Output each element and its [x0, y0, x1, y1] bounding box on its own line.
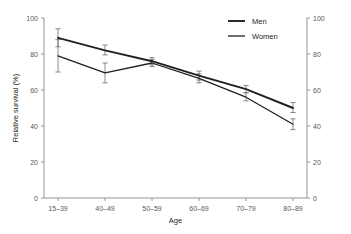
relative-survival-chart: 02040608010002040608010015–3940–4950–596… — [0, 0, 351, 234]
x-axis-tick-label: 70–79 — [236, 205, 256, 212]
y-axis-left-tick-label: 20 — [30, 159, 38, 166]
y-axis-left-tick-label: 60 — [30, 87, 38, 94]
y-axis-right-tick-label: 100 — [313, 15, 325, 22]
y-axis-left-tick-label: 0 — [34, 195, 38, 202]
y-axis-right-tick-label: 0 — [313, 195, 317, 202]
x-axis-title: Age — [169, 216, 182, 225]
y-axis-left-tick-label: 100 — [26, 15, 38, 22]
legend-label-men: Men — [252, 17, 267, 26]
y-axis-right-tick-label: 20 — [313, 159, 321, 166]
y-axis-right-tick-label: 60 — [313, 87, 321, 94]
y-axis-left-tick-label: 40 — [30, 123, 38, 130]
legend-label-women: Women — [252, 32, 278, 41]
x-axis-tick-label: 40–49 — [95, 205, 115, 212]
y-axis-left-tick-label: 80 — [30, 51, 38, 58]
series-line-women — [58, 56, 293, 124]
x-axis-tick-label: 60–69 — [189, 205, 209, 212]
x-axis-tick-label: 15–39 — [48, 205, 68, 212]
y-axis-right-tick-label: 80 — [313, 51, 321, 58]
chart-canvas: 02040608010002040608010015–3940–4950–596… — [0, 0, 351, 234]
x-axis-tick-label: 80–89 — [283, 205, 303, 212]
series-line-men — [58, 38, 293, 108]
x-axis-tick-label: 50–59 — [142, 205, 162, 212]
y-axis-title: Relative survival (%) — [11, 73, 20, 142]
y-axis-right-tick-label: 40 — [313, 123, 321, 130]
